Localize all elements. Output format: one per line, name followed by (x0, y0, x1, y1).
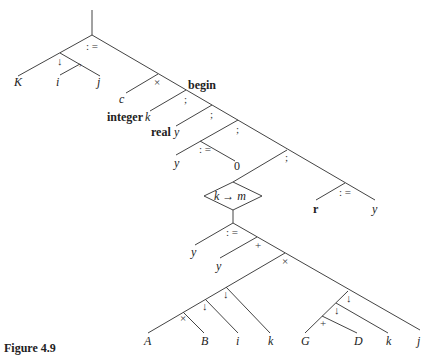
plus-node: + (320, 317, 326, 329)
leaf-y: y (190, 245, 197, 259)
index-node: ↓ (202, 300, 208, 312)
plus-node: + (255, 239, 261, 251)
times-node: × (282, 255, 288, 267)
semicolon-node: ; (210, 108, 213, 120)
leaf-y: y (173, 125, 180, 139)
leaf-i: i (236, 334, 239, 348)
loop-node: k → m (214, 189, 246, 203)
leaf-A: A (143, 334, 152, 348)
leaf-B: B (201, 334, 209, 348)
integer-keyword: integer (107, 110, 144, 124)
comma-node: , (79, 55, 82, 67)
leaf-k: k (145, 110, 151, 124)
leaf-j: j (415, 334, 421, 348)
assign-node: : = (86, 40, 98, 52)
figure-caption: Figure 4.9 (4, 341, 56, 355)
assign-node: : = (339, 186, 351, 198)
leaf-j: j (95, 75, 101, 89)
leaf-zero: 0 (234, 159, 240, 173)
leaf-G: G (301, 334, 310, 348)
semicolon-node: ; (285, 151, 288, 163)
leaf-r: r (313, 202, 319, 216)
assign-node: : = (199, 143, 211, 155)
semicolon-node: ; (236, 123, 239, 135)
index-node: ↓ (57, 55, 63, 67)
times-node: × (180, 312, 186, 324)
index-node: ↓ (223, 288, 229, 300)
leaf-y: y (371, 202, 378, 216)
times-node: × (154, 76, 160, 88)
begin-node: begin (188, 78, 216, 92)
index-node: ↓ (346, 292, 352, 304)
leaf-c: c (119, 92, 125, 106)
leaf-i: i (56, 75, 59, 89)
syntax-tree-diagram: : = ↓ , K i j × c begin ; integer k ; re… (0, 0, 434, 357)
assign-node: : = (226, 226, 238, 238)
tree-labels: : = ↓ , K i j × c begin ; integer k ; re… (13, 40, 421, 348)
index-node: ↓ (334, 304, 340, 316)
leaf-k: k (386, 334, 392, 348)
real-keyword: real (151, 125, 171, 139)
leaf-K: K (13, 75, 23, 89)
leaf-y: y (215, 259, 222, 273)
leaf-D: D (353, 334, 363, 348)
leaf-k: k (268, 334, 274, 348)
leaf-y: y (173, 156, 180, 170)
semicolon-node: ; (184, 93, 187, 105)
